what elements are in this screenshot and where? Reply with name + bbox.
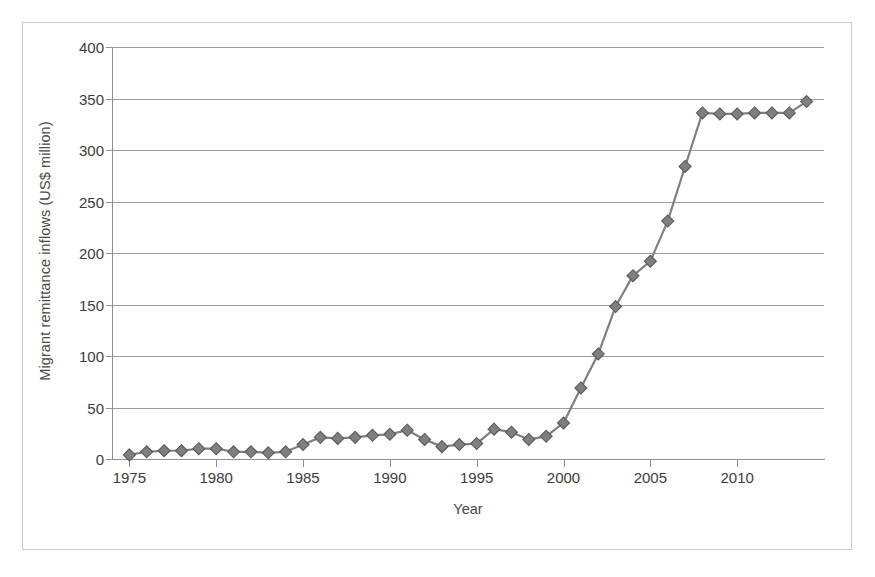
data-point-marker: [592, 348, 604, 360]
x-axis-tick: [564, 460, 565, 467]
data-point-marker: [297, 439, 309, 451]
y-axis-tick: [106, 305, 113, 306]
data-point-marker: [801, 96, 813, 108]
y-axis-tick-label: 150: [44, 296, 104, 313]
y-axis-tick-label: 250: [44, 193, 104, 210]
data-point-marker: [627, 270, 639, 282]
data-point-marker: [436, 441, 448, 453]
y-axis-tick-label: 50: [44, 399, 104, 416]
data-point-marker: [193, 443, 205, 455]
x-axis-tick-label: 2005: [615, 469, 685, 486]
data-point-marker: [488, 423, 500, 435]
x-axis-tick-label: 2000: [529, 469, 599, 486]
data-point-marker: [384, 428, 396, 440]
data-point-marker: [158, 445, 170, 457]
gridline: [112, 356, 824, 357]
gridline: [112, 202, 824, 203]
x-axis-tick: [650, 460, 651, 467]
data-point-marker: [662, 215, 674, 227]
x-axis-tick-label: 1995: [442, 469, 512, 486]
y-axis-tick: [106, 253, 113, 254]
x-axis-tick-label: 1980: [181, 469, 251, 486]
data-point-marker: [783, 107, 795, 119]
y-axis-tick: [106, 459, 113, 460]
data-point-marker: [453, 439, 465, 451]
data-point-marker: [314, 431, 326, 443]
data-point-marker: [731, 108, 743, 120]
x-axis-tick-label: 1975: [94, 469, 164, 486]
gridline: [112, 305, 824, 306]
data-point-marker: [262, 447, 274, 459]
x-axis-tick: [390, 460, 391, 467]
y-axis-tick-label: 0: [44, 451, 104, 468]
data-point-marker: [401, 424, 413, 436]
data-point-marker: [714, 108, 726, 120]
data-point-marker: [245, 446, 257, 458]
y-axis-tick-label: 300: [44, 142, 104, 159]
x-axis-tick: [477, 460, 478, 467]
data-point-marker: [540, 430, 552, 442]
gridline: [112, 99, 824, 100]
x-axis-tick: [737, 460, 738, 467]
x-axis-tick: [303, 460, 304, 467]
series-polyline: [129, 102, 806, 455]
y-axis-tick: [106, 99, 113, 100]
data-point-marker: [749, 107, 761, 119]
data-point-marker: [523, 433, 535, 445]
x-axis-tick: [216, 460, 217, 467]
chart-container: Migrant remittance inflows (US$ million)…: [0, 0, 875, 577]
data-point-marker: [349, 431, 361, 443]
data-point-marker: [679, 160, 691, 172]
gridline: [112, 150, 824, 151]
y-axis-tick-label: 100: [44, 348, 104, 365]
x-axis-tick-label: 1985: [268, 469, 338, 486]
data-point-marker: [210, 443, 222, 455]
y-axis-tick: [106, 408, 113, 409]
y-axis-tick: [106, 356, 113, 357]
gridline: [112, 253, 824, 254]
x-axis-tick-label: 2010: [702, 469, 772, 486]
x-axis-tick-label: 1990: [355, 469, 425, 486]
gridline: [112, 408, 824, 409]
gridline: [112, 47, 824, 48]
y-axis-tick: [106, 150, 113, 151]
data-point-marker: [141, 446, 153, 458]
x-axis-tick: [129, 460, 130, 467]
data-point-marker: [766, 107, 778, 119]
y-axis-tick-label: 200: [44, 245, 104, 262]
y-axis-tick-label: 400: [44, 39, 104, 56]
data-point-marker: [558, 417, 570, 429]
y-axis-tick-label: 350: [44, 90, 104, 107]
data-point-marker: [332, 432, 344, 444]
chart-frame: Migrant remittance inflows (US$ million)…: [22, 22, 852, 550]
x-axis-title: Year: [112, 501, 824, 517]
data-point-marker: [610, 301, 622, 313]
data-point-marker: [505, 426, 517, 438]
data-point-marker: [366, 429, 378, 441]
x-axis-line: [112, 459, 825, 460]
data-point-marker: [228, 446, 240, 458]
data-point-marker: [280, 446, 292, 458]
data-point-marker: [575, 382, 587, 394]
data-point-marker: [644, 255, 656, 267]
data-point-marker: [471, 438, 483, 450]
data-point-marker: [419, 433, 431, 445]
y-axis-tick: [106, 202, 113, 203]
data-point-marker: [696, 107, 708, 119]
y-axis-tick: [106, 47, 113, 48]
data-point-marker: [175, 445, 187, 457]
